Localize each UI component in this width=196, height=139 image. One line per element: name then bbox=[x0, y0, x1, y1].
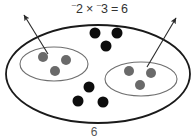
group-dot bbox=[135, 80, 145, 90]
product-counter-dot bbox=[90, 28, 101, 39]
total-label: 6 bbox=[91, 125, 98, 139]
product-counter-dot bbox=[73, 96, 84, 107]
equation-label: ⁻ 2 × ⁻ 3 = 6 bbox=[71, 1, 128, 16]
product-value: 6 bbox=[121, 2, 128, 16]
left-factor: 2 bbox=[76, 2, 83, 16]
equals-sign: = bbox=[111, 2, 119, 16]
figure-canvas: ⁻ 2 × ⁻ 3 = 6 6 bbox=[0, 0, 196, 139]
product-counter-dot bbox=[84, 82, 95, 93]
group-dot bbox=[61, 55, 71, 65]
product-counter-dot bbox=[98, 97, 109, 108]
group-dot bbox=[146, 68, 156, 78]
group-dot bbox=[124, 66, 134, 76]
group-dot bbox=[50, 66, 60, 76]
product-counter-dot bbox=[112, 28, 123, 39]
right-factor: 3 bbox=[101, 2, 108, 16]
product-counter-dot bbox=[101, 41, 112, 52]
universe-ellipse bbox=[6, 25, 190, 123]
group-dot bbox=[38, 52, 48, 62]
multiplication-operator: × bbox=[86, 2, 94, 16]
integer-multiplication-figure: ⁻ 2 × ⁻ 3 = 6 6 bbox=[0, 0, 196, 139]
